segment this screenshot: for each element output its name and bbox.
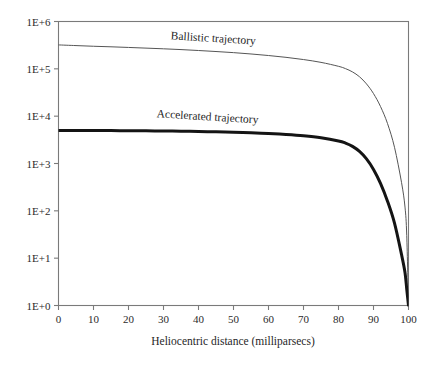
y-tick-label-1E+6: 1E+6 <box>27 16 51 28</box>
y-tick-label-1E+1: 1E+1 <box>27 252 51 264</box>
x-tick-label-40: 40 <box>193 313 205 325</box>
x-tick-label-10: 10 <box>88 313 100 325</box>
y-tick-label-1E+2: 1E+2 <box>27 205 51 217</box>
x-tick-label-90: 90 <box>368 313 380 325</box>
trajectory-log-line-chart: 1E+01E+11E+21E+31E+41E+51E+6 01020304050… <box>0 0 437 365</box>
y-tick-label-1E+4: 1E+4 <box>27 110 51 122</box>
y-tick-label-1E+3: 1E+3 <box>27 158 51 170</box>
chart-page: 1E+01E+11E+21E+31E+41E+51E+6 01020304050… <box>0 0 437 365</box>
x-axis-title: Heliocentric distance (milliparsecs) <box>151 335 315 348</box>
x-tick-label-100: 100 <box>400 313 417 325</box>
x-tick-label-50: 50 <box>228 313 240 325</box>
chart-background <box>0 0 437 365</box>
x-tick-label-30: 30 <box>158 313 170 325</box>
x-tick-label-0: 0 <box>56 313 62 325</box>
x-tick-label-20: 20 <box>123 313 135 325</box>
x-tick-label-60: 60 <box>263 313 275 325</box>
x-tick-label-70: 70 <box>298 313 310 325</box>
y-tick-label-1E+5: 1E+5 <box>27 63 51 75</box>
y-tick-label-1E+0: 1E+0 <box>27 300 51 312</box>
x-tick-label-80: 80 <box>333 313 345 325</box>
